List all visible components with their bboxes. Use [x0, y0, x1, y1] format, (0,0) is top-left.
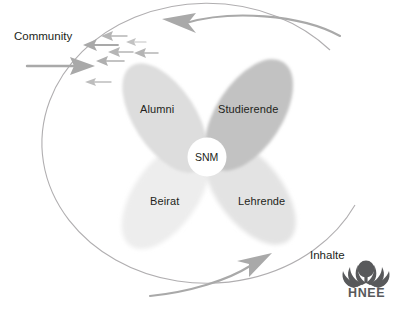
label-snm-center: SNM: [195, 152, 218, 163]
label-beirat: Beirat: [150, 196, 179, 207]
cycle-arrow-top: [162, 13, 340, 36]
diagram-canvas: Community Alumni Studierende SNM Beirat …: [0, 0, 400, 309]
label-alumni: Alumni: [140, 104, 174, 115]
label-studierende: Studierende: [218, 104, 278, 115]
hnee-tree-icon: [342, 261, 389, 288]
hnee-wordmark: HNEE: [348, 287, 385, 300]
label-inhalte: Inhalte: [310, 250, 345, 262]
label-community: Community: [14, 31, 72, 43]
label-lehrende: Lehrende: [238, 196, 285, 207]
cycle-arrow-bottom: [150, 253, 272, 296]
